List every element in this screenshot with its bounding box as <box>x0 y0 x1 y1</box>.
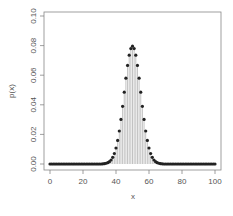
x-tick-label: 40 <box>112 177 121 186</box>
x-axis-label: x <box>131 192 135 201</box>
y-tick-label: 0.00 <box>29 156 38 172</box>
probability-lines <box>103 46 162 164</box>
y-tick-label: 0.08 <box>29 37 38 53</box>
pmf-point <box>121 105 124 108</box>
pmf-point <box>114 146 117 149</box>
y-axis: 0.000.020.040.060.080.10 <box>29 8 44 172</box>
pmf-point <box>109 158 112 161</box>
pmf-point <box>133 47 136 50</box>
pmf-point <box>142 118 145 121</box>
pmf-point <box>119 118 122 121</box>
pmf-point <box>123 91 126 94</box>
y-axis-label: p(x) <box>7 84 16 98</box>
y-tick-label: 0.10 <box>29 8 38 24</box>
pmf-point <box>139 91 142 94</box>
pmf-point <box>147 146 150 149</box>
pmf-point <box>141 105 144 108</box>
pmf-point <box>111 156 114 159</box>
pmf-point <box>149 152 152 155</box>
y-tick-label: 0.06 <box>29 67 38 83</box>
pmf-point <box>213 162 216 165</box>
pmf-point <box>124 77 127 80</box>
x-tick-label: 0 <box>48 177 53 186</box>
pmf-point <box>138 77 141 80</box>
pmf-chart: 0.000.020.040.060.080.10 020406080100 x … <box>0 0 233 216</box>
pmf-point <box>128 54 131 57</box>
pmf-point <box>126 64 129 67</box>
pmf-point <box>151 156 154 159</box>
y-tick-label: 0.04 <box>29 96 38 112</box>
x-tick-label: 20 <box>79 177 88 186</box>
pmf-point <box>134 54 137 57</box>
pmf-point <box>144 129 147 132</box>
pmf-point <box>146 139 149 142</box>
x-axis: 020406080100 <box>48 170 222 186</box>
x-tick-label: 80 <box>178 177 187 186</box>
pmf-point <box>116 139 119 142</box>
x-tick-label: 100 <box>208 177 222 186</box>
pmf-point <box>136 64 139 67</box>
x-tick-label: 60 <box>145 177 154 186</box>
pmf-point <box>113 152 116 155</box>
y-tick-label: 0.02 <box>29 126 38 142</box>
pmf-point <box>118 129 121 132</box>
